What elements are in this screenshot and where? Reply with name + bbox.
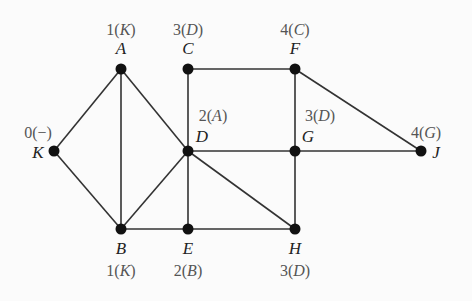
vertex-label: 0(−): [24, 124, 52, 142]
node-B: B1(K): [106, 224, 135, 281]
vertex-dot: [183, 224, 194, 235]
vertex-label: 4(G): [411, 124, 441, 142]
vertex-name: J: [432, 143, 441, 162]
node-E: E2(B): [174, 224, 202, 281]
edge-K-A: [54, 69, 121, 151]
node-A: A1(K): [106, 21, 135, 75]
vertex-label: 1(K): [106, 21, 135, 39]
edges: [54, 69, 421, 229]
vertex-dot: [183, 64, 194, 75]
node-H: H3(D): [280, 224, 310, 281]
vertex-label: 3(D): [280, 262, 310, 280]
vertex-dot: [290, 146, 301, 157]
vertex-name: G: [302, 127, 314, 146]
vertex-label: 3(D): [305, 107, 335, 125]
vertex-dot: [183, 146, 194, 157]
vertex-dot: [290, 224, 301, 235]
vertex-name: D: [195, 127, 209, 146]
vertex-dot: [416, 146, 427, 157]
vertex-name: A: [115, 39, 127, 58]
vertex-name: C: [182, 39, 194, 58]
vertex-name: B: [116, 239, 127, 258]
vertex-name: F: [289, 39, 301, 58]
vertex-dot: [116, 64, 127, 75]
vertex-name: K: [31, 143, 45, 162]
vertex-label: 2(B): [174, 262, 202, 280]
node-J: J4(G): [411, 124, 441, 162]
vertex-name: E: [182, 239, 194, 258]
node-D: D2(A): [183, 107, 228, 157]
vertex-dot: [290, 64, 301, 75]
edge-D-H: [188, 151, 295, 229]
edge-A-D: [121, 69, 188, 151]
edge-D-B: [121, 151, 188, 229]
vertex-dot: [49, 146, 60, 157]
vertex-label: 1(K): [106, 262, 135, 280]
vertex-label: 2(A): [199, 107, 227, 125]
edge-K-B: [54, 151, 121, 229]
vertex-label: 4(C): [280, 21, 309, 39]
node-C: C3(D): [173, 21, 203, 75]
node-F: F4(C): [280, 21, 309, 75]
graph-diagram: A1(K)C3(D)F4(C)K0(−)D2(A)G3(D)J4(G)B1(K)…: [0, 0, 472, 301]
vertex-name: H: [288, 239, 303, 258]
node-K: K0(−): [24, 124, 59, 162]
vertex-label: 3(D): [173, 21, 203, 39]
vertex-dot: [116, 224, 127, 235]
node-G: G3(D): [290, 107, 336, 157]
